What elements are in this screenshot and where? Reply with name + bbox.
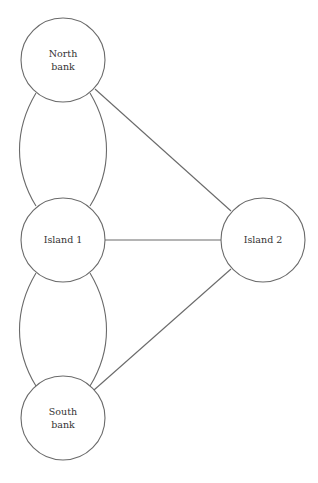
edge-south-island2 (94, 269, 231, 390)
node-island-1: Island 1 (21, 198, 105, 282)
edge-island1-south-left (20, 273, 37, 386)
node-label-line: North (49, 48, 78, 59)
node-south-bank: South bank (21, 376, 105, 460)
konigsberg-graph: North bank Island 1 Island 2 South bank (0, 0, 318, 483)
node-label-line: bank (51, 419, 75, 430)
edge-island1-south-right (90, 273, 107, 386)
node-label-line: South (49, 406, 77, 417)
node-label-line: Island 2 (244, 234, 283, 245)
node-label-line: Island 1 (44, 234, 83, 245)
node-island-2: Island 2 (221, 198, 305, 282)
node-north-bank: North bank (21, 18, 105, 102)
edge-north-island2 (95, 89, 231, 211)
edge-north-island1-right (90, 93, 107, 206)
edge-north-island1-left (20, 93, 37, 206)
node-label-line: bank (51, 61, 75, 72)
